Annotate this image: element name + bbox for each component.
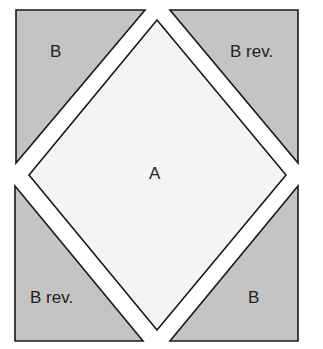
label-b-rev-top-right: B rev. (230, 42, 273, 62)
label-b-bottom-right: B (248, 288, 259, 308)
label-b-rev-bottom-left: B rev. (30, 288, 73, 308)
label-a-center: A (149, 164, 160, 184)
label-b-top-left: B (50, 42, 61, 62)
